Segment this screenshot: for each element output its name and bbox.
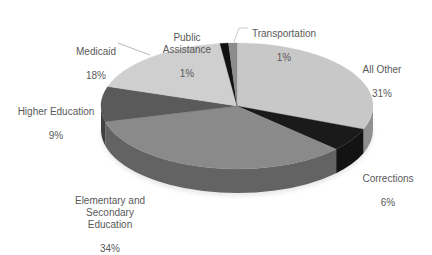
label-higher-education: Higher Education 9% xyxy=(12,94,100,142)
pie-top-faces xyxy=(101,43,373,169)
label-elementary-secondary-education: Elementary and Secondary Education 34% xyxy=(62,183,158,255)
label-medicaid: Medicaid 18% xyxy=(64,34,128,82)
label-all-other: All Other 31% xyxy=(350,52,414,100)
label-corrections: Corrections 6% xyxy=(356,161,420,209)
label-transportation: Transportation 1% xyxy=(244,16,324,64)
label-public-assistance: Public Assistance 1% xyxy=(152,20,222,80)
